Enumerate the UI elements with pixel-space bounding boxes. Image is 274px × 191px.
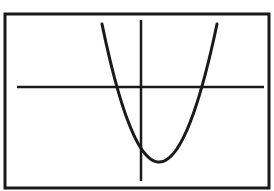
parabola-curve: [102, 24, 217, 162]
parabola-graph: [0, 0, 274, 191]
graph-frame: [5, 14, 269, 188]
